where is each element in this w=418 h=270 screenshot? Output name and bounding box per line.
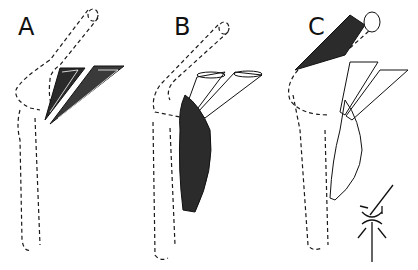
panel-c-bone-outline xyxy=(289,30,370,249)
anatomical-figure: A B C xyxy=(0,0,418,270)
figure-drawing xyxy=(0,0,418,270)
panel-c-label: C xyxy=(308,15,325,39)
panel-a-bone-outline xyxy=(16,9,98,250)
panel-b-muscles xyxy=(179,71,262,212)
panel-a-label: A xyxy=(18,15,34,39)
panel-a-muscles xyxy=(45,66,124,124)
force-schematic-inset xyxy=(358,185,393,262)
panel-b-label: B xyxy=(174,15,190,39)
